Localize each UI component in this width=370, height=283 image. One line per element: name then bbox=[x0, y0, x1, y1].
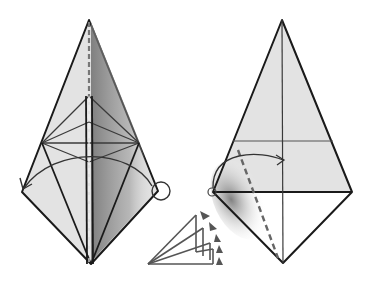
left-shadow bbox=[91, 22, 155, 262]
right-figure bbox=[199, 20, 352, 263]
repeat-fold-symbol bbox=[148, 211, 223, 265]
diagram-canvas bbox=[0, 0, 370, 283]
left-figure bbox=[20, 20, 170, 264]
origami-diagram bbox=[0, 0, 370, 283]
